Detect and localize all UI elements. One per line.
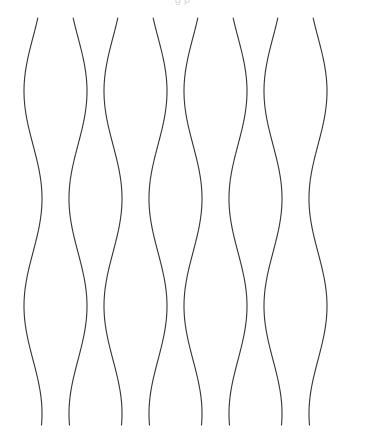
curve-canvas (0, 0, 365, 435)
sine-curve (229, 18, 247, 425)
sine-curve (69, 18, 87, 425)
sine-curve (104, 18, 122, 425)
sine-curve (309, 18, 327, 425)
sine-curve (149, 18, 167, 425)
sine-curve (264, 18, 282, 425)
sine-curve (184, 18, 202, 425)
sine-curve (24, 18, 42, 425)
curve-group (24, 18, 327, 425)
figure-container: g p (0, 0, 365, 435)
